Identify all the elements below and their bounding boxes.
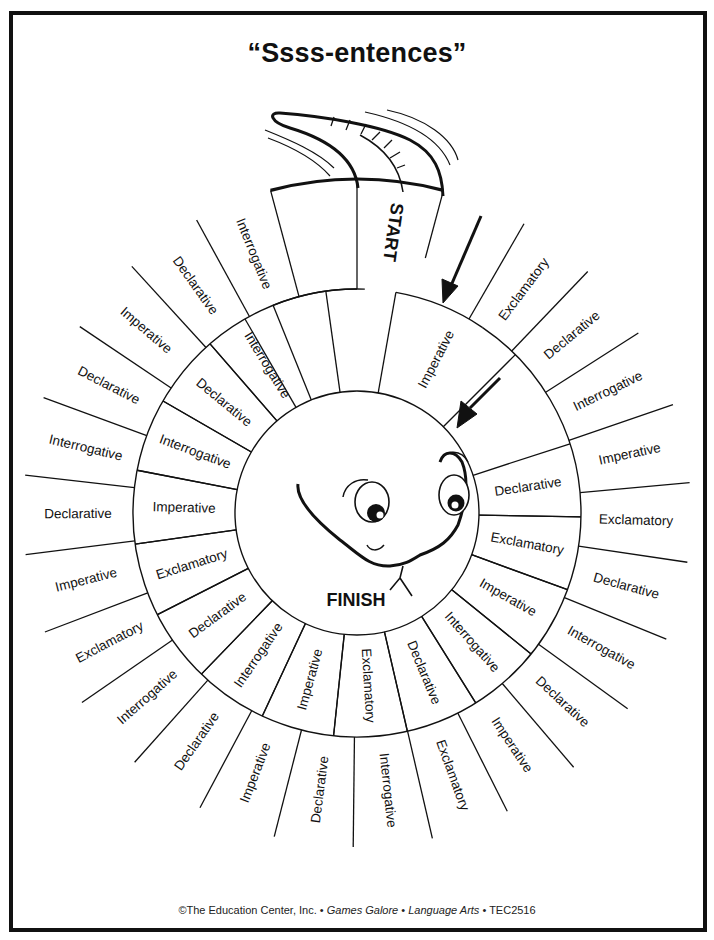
start-space[interactable]: START (379, 202, 407, 263)
outer-space[interactable]: Interrogative (571, 368, 645, 414)
outer-space[interactable]: Imperative (237, 741, 274, 805)
outer-space[interactable]: Declarative (533, 673, 593, 730)
outer-space[interactable]: Interrogative (48, 432, 124, 464)
outer-space[interactable]: Exclamatory (599, 511, 674, 528)
outer-space[interactable]: Interrogative (565, 623, 638, 673)
middle-space[interactable]: Declarative (404, 638, 444, 706)
outer-space[interactable]: Declarative (44, 506, 112, 521)
outer-space[interactable]: Interrogative (377, 752, 400, 828)
middle-space[interactable]: Exclamatory (154, 546, 230, 583)
outer-space[interactable]: Declarative (541, 308, 603, 362)
snake-tail-icon (265, 110, 458, 196)
outer-space[interactable]: Declarative (171, 709, 222, 773)
outer-space[interactable]: Exclamatory (495, 255, 552, 324)
middle-space[interactable]: Imperative (477, 575, 539, 619)
product-code: TEC2516 (489, 904, 535, 916)
game-board: ExclamatoryDeclarativeInterrogativeImper… (0, 0, 714, 940)
middle-space[interactable]: Exclamatory (359, 648, 379, 723)
middle-space[interactable]: Interrogative (442, 609, 503, 675)
outer-space[interactable]: Interrogative (114, 666, 180, 727)
finish-space[interactable]: FINISH (326, 590, 385, 610)
middle-space[interactable]: Declarative (193, 375, 255, 430)
outer-space[interactable]: Exclamatory (73, 618, 146, 666)
middle-space[interactable]: Imperative (294, 647, 325, 712)
outer-space[interactable]: Declarative (75, 363, 142, 407)
outer-space[interactable]: Declarative (308, 755, 332, 824)
outer-space[interactable]: Declarative (170, 254, 221, 318)
middle-space[interactable]: Interrogative (241, 329, 293, 401)
middle-space[interactable]: Imperative (152, 499, 215, 516)
middle-space[interactable]: Interrogative (158, 431, 234, 471)
middle-space[interactable]: Declarative (493, 474, 562, 499)
snake-head-icon (298, 452, 469, 596)
book-title: Games Galore (327, 904, 399, 916)
outer-space[interactable]: Exclamatory (433, 738, 472, 813)
outer-space[interactable]: Imperative (597, 440, 662, 468)
outer-space[interactable]: Imperative (118, 304, 176, 357)
outer-space[interactable]: Interrogative (233, 216, 275, 291)
outer-space[interactable]: Imperative (54, 565, 119, 595)
outer-space[interactable]: Imperative (488, 714, 535, 775)
middle-space[interactable]: Interrogative (231, 620, 286, 690)
arrow-icon (442, 216, 500, 428)
copyright-text: ©The Education Center, Inc. (178, 904, 316, 916)
footer-credits: ©The Education Center, Inc. • Games Galo… (0, 904, 714, 916)
middle-space[interactable]: Exclamatory (489, 529, 565, 557)
subject-text: Language Arts (408, 904, 479, 916)
outer-space[interactable]: Declarative (592, 570, 661, 602)
middle-space[interactable]: Imperative (415, 328, 457, 391)
middle-space[interactable]: Declarative (186, 589, 249, 641)
